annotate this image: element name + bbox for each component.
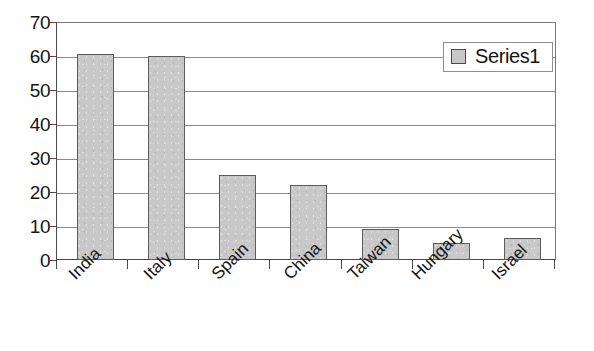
y-tick-label-0: 0 — [4, 251, 50, 270]
bar-italy[interactable] — [148, 56, 185, 260]
y-tick-label-40: 40 — [4, 115, 50, 134]
y-tick-label-10: 10 — [4, 217, 50, 236]
bar-india[interactable] — [77, 54, 114, 260]
bar-texture — [78, 55, 113, 259]
y-tick-label-70: 70 — [4, 13, 50, 32]
bar-chart: 70 60 50 40 30 20 10 0 — [0, 0, 594, 351]
bar-texture — [149, 57, 184, 259]
legend-label-series1: Series1 — [475, 46, 540, 67]
y-tick-label-60: 60 — [4, 47, 50, 66]
y-tick-label-20: 20 — [4, 183, 50, 202]
legend[interactable]: Series1 — [443, 42, 553, 72]
legend-swatch-series1 — [451, 49, 466, 64]
y-axis: 70 60 50 40 30 20 10 0 — [0, 22, 50, 260]
x-axis-labels: India Italy Spain China Taiwan Hungary I… — [56, 266, 556, 351]
y-tick-label-30: 30 — [4, 149, 50, 168]
y-tick-label-50: 50 — [4, 81, 50, 100]
